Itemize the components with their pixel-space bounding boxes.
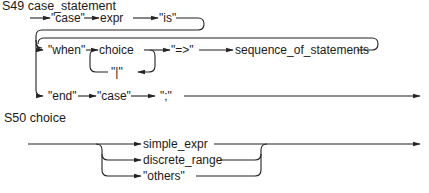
syntax-diagrams: S49 case_statement "case" expr "is" "whe… xyxy=(0,0,429,193)
diagram-title: S50 choice xyxy=(4,111,66,125)
sequence-of-statements-nonterminal: sequence_of_statements xyxy=(235,43,369,57)
semicolon-symbol: ";" xyxy=(160,89,172,103)
simple-expr-nonterminal: simple_expr xyxy=(143,137,208,151)
discrete-range-nonterminal: discrete_range xyxy=(143,153,223,167)
when-keyword: "when" xyxy=(48,43,85,57)
case-keyword-closing: "case" xyxy=(97,89,131,103)
choice-nonterminal: choice xyxy=(99,43,134,57)
choice-diagram: S50 choice simple_expr discrete_range "o… xyxy=(4,111,420,183)
case-keyword: "case" xyxy=(51,11,85,25)
end-keyword: "end" xyxy=(48,89,77,103)
bar-symbol: "|" xyxy=(111,65,123,79)
arrow-symbol: "=>" xyxy=(171,43,194,57)
case-statement-diagram: S49 case_statement "case" expr "is" "whe… xyxy=(2,0,420,103)
expr-nonterminal: expr xyxy=(100,11,123,25)
others-keyword: "others" xyxy=(143,169,185,183)
is-keyword: "is" xyxy=(159,11,176,25)
